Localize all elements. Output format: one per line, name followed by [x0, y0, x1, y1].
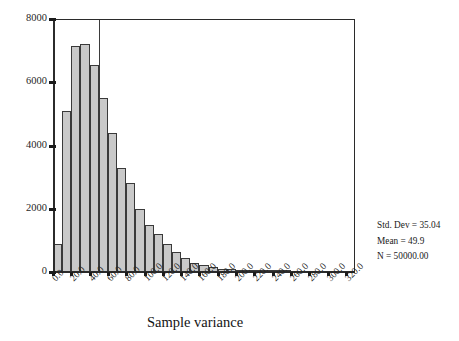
y-axis-tick: [49, 81, 56, 84]
histogram-bar: [126, 183, 135, 272]
histogram-bar: [90, 65, 99, 272]
y-axis-tick-label: 0: [11, 266, 47, 276]
histogram-bar: [117, 168, 126, 272]
reference-line: [99, 20, 100, 110]
histogram-bar: [80, 44, 89, 272]
histogram-bar: [135, 209, 144, 272]
y-axis-tick: [49, 18, 56, 21]
x-axis-title: Sample variance: [0, 314, 390, 331]
stat-n: N = 50000.00: [377, 249, 459, 265]
stat-std-dev: Std. Dev = 35.04: [377, 218, 459, 234]
statistics-annotation: Std. Dev = 35.04 Mean = 49.9 N = 50000.0…: [377, 218, 459, 265]
stat-mean: Mean = 49.9: [377, 234, 459, 250]
histogram-bar: [71, 46, 80, 272]
histogram-bar: [62, 111, 71, 272]
y-axis-tick-label: 4000: [11, 140, 47, 150]
y-axis-tick: [49, 145, 56, 148]
y-axis-tick-label: 2000: [11, 203, 47, 213]
y-axis-tick-label: 8000: [11, 13, 47, 23]
histogram-bar: [108, 133, 117, 272]
y-axis-tick-labels: 02000400060008000: [3, 0, 47, 341]
histogram-figure: 02000400060008000 Sample variance Std. D…: [0, 0, 459, 341]
y-axis-tick-label: 6000: [11, 76, 47, 86]
y-axis-tick: [49, 208, 56, 211]
histogram-bar: [99, 98, 108, 272]
